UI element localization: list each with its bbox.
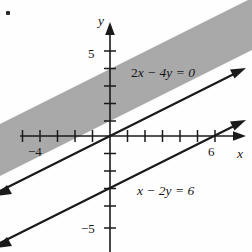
equation-label-lower: x − 2y = 6 [137, 184, 194, 198]
line-lower-arrow-right-icon [230, 120, 246, 131]
x-axis-label: x [237, 147, 243, 161]
y-tick-label-5: 5 [88, 47, 95, 60]
equation-upper-text: x − 4y = 0 [138, 65, 195, 80]
y-axis-label: y [98, 14, 104, 28]
coordinate-plane [0, 0, 252, 252]
equation-upper-coefficient: 2 [131, 65, 138, 80]
line-upper-arrow-right-icon [230, 68, 246, 79]
x-tick-label-neg4: −4 [28, 145, 42, 158]
x-tick-label-6: 6 [208, 145, 215, 158]
x-axis-arrow-icon [233, 131, 246, 141]
y-axis-arrow-icon [105, 22, 115, 35]
y-tick-label-neg5: −5 [81, 222, 95, 235]
equation-label-upper: 2x − 4y = 0 [131, 66, 195, 80]
graph-figure: 5 −5 −4 6 y x 2x − 4y = 0 x − 2y = 6 [0, 0, 252, 252]
